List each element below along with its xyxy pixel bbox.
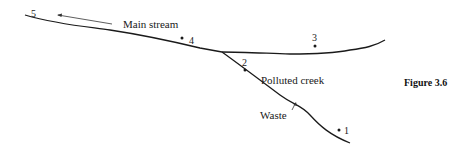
main-stream-upstream-line bbox=[222, 40, 385, 54]
station-4-label: 4 bbox=[189, 36, 194, 46]
waste-label: Waste bbox=[260, 110, 287, 121]
figure-caption: Figure 3.6 bbox=[404, 77, 447, 88]
station-3-dot bbox=[314, 45, 317, 48]
stream-diagram bbox=[0, 0, 455, 150]
station-1-dot bbox=[338, 129, 341, 132]
station-5-label: 5 bbox=[31, 9, 36, 19]
station-2-label: 2 bbox=[242, 58, 247, 68]
flow-arrow-head bbox=[57, 14, 62, 18]
station-3-label: 3 bbox=[312, 33, 317, 43]
station-1-label: 1 bbox=[344, 126, 349, 136]
station-4-dot bbox=[181, 37, 184, 40]
station-2-dot bbox=[244, 69, 247, 72]
main-stream-label: Main stream bbox=[123, 19, 178, 30]
flow-arrow-line bbox=[58, 15, 112, 24]
polluted-creek-label: Polluted creek bbox=[261, 75, 324, 86]
